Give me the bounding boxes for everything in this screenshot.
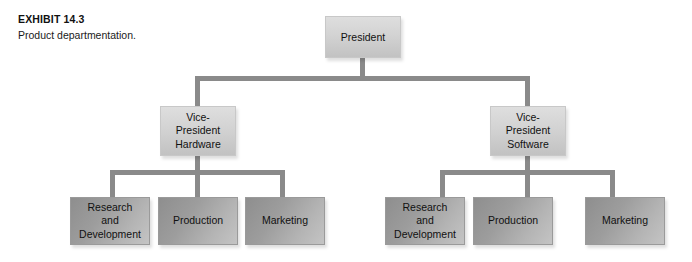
- connector-level1-bus: [195, 76, 530, 81]
- node-sw-research-and-development[interactable]: Research and Development: [385, 197, 465, 245]
- node-hw-marketing-label: Marketing: [246, 214, 324, 228]
- node-hw-production-label: Production: [159, 214, 237, 228]
- node-president-label: President: [326, 31, 400, 44]
- node-vp-software[interactable]: Vice-President Software: [490, 106, 566, 156]
- node-hw-research-and-development-label: Research and Development: [71, 201, 149, 242]
- connector-drop-hw-production: [195, 170, 200, 198]
- node-hw-research-and-development[interactable]: Research and Development: [70, 197, 150, 245]
- org-chart: President Vice-President Hardware Vice-P…: [0, 0, 692, 262]
- node-vp-software-label: Vice-President Software: [491, 111, 565, 152]
- connector-drop-sw-production: [525, 170, 530, 198]
- node-hw-marketing[interactable]: Marketing: [245, 197, 325, 245]
- node-sw-research-and-development-label: Research and Development: [386, 201, 464, 242]
- connector-drop-hw-research: [110, 170, 115, 198]
- node-sw-production-label: Production: [474, 214, 552, 228]
- node-sw-marketing-label: Marketing: [586, 214, 664, 228]
- node-sw-production[interactable]: Production: [473, 197, 553, 245]
- connector-drop-vp-hardware: [195, 76, 200, 106]
- connector-drop-sw-marketing: [610, 170, 615, 198]
- connector-drop-hw-marketing: [280, 170, 285, 198]
- connector-drop-sw-research: [440, 170, 445, 198]
- node-hw-production[interactable]: Production: [158, 197, 238, 245]
- node-vp-hardware[interactable]: Vice-President Hardware: [160, 106, 236, 156]
- connector-president-stem: [360, 58, 365, 78]
- connector-drop-vp-software: [525, 76, 530, 106]
- node-vp-hardware-label: Vice-President Hardware: [161, 111, 235, 152]
- node-president[interactable]: President: [325, 16, 401, 58]
- node-sw-marketing[interactable]: Marketing: [585, 197, 665, 245]
